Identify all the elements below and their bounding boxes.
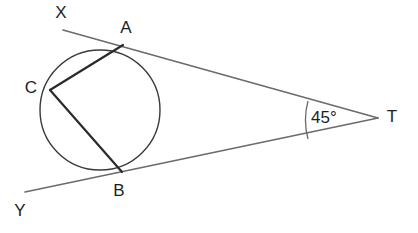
label-angle-45: 45° — [311, 108, 337, 127]
label-point-y: Y — [14, 201, 25, 220]
circle-shape — [40, 50, 160, 170]
label-point-t: T — [387, 107, 397, 126]
tangent-line-xt — [63, 30, 378, 118]
label-point-b: B — [113, 181, 124, 200]
tangent-line-yt — [25, 118, 378, 192]
label-point-x: X — [55, 3, 66, 22]
label-point-c: C — [25, 78, 37, 97]
label-point-a: A — [120, 18, 132, 37]
chord-cb — [50, 90, 122, 172]
geometry-diagram: X A C B Y T 45° — [0, 0, 418, 233]
